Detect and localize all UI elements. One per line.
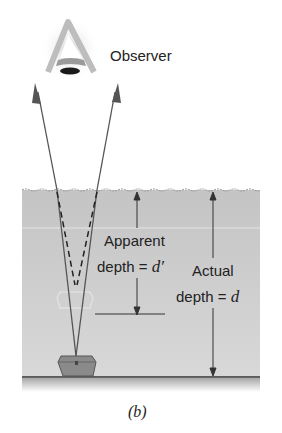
sea-floor: [22, 377, 260, 392]
observer-label: Observer: [110, 47, 172, 64]
refraction-diagram: [0, 0, 282, 433]
apparent-depth-symbol: d′: [152, 257, 164, 276]
figure-caption: (b): [128, 403, 147, 421]
water: [22, 189, 260, 377]
apparent-depth-prefix: depth =: [97, 258, 152, 275]
apparent-depth-label-line1: Apparent: [104, 232, 165, 249]
observer-eye-icon: [40, 18, 100, 82]
treasure-chest-icon: [58, 356, 96, 376]
actual-depth-label-line2: depth = d: [176, 287, 239, 307]
actual-depth-prefix: depth =: [176, 288, 231, 305]
ray-arrowheads: [32, 83, 121, 104]
apparent-depth-label-line2: depth = d′: [97, 257, 164, 277]
actual-depth-symbol: d: [231, 287, 240, 306]
actual-depth-label-line1: Actual: [192, 262, 234, 279]
